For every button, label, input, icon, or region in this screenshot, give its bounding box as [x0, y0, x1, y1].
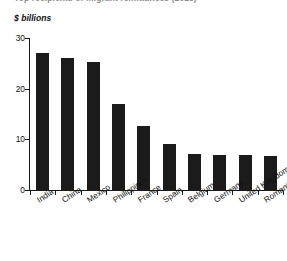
- bar[interactable]: [36, 53, 49, 190]
- y-tick-label: 0: [0, 186, 25, 194]
- bars-container: [30, 38, 283, 190]
- y-tick-mark: [25, 139, 29, 140]
- bar[interactable]: [163, 144, 176, 190]
- y-tick-mark: [25, 190, 29, 191]
- bar[interactable]: [87, 62, 100, 190]
- clipped-title-strip: Top recipients of migrant remittances (2…: [0, 0, 287, 7]
- y-tick-mark: [25, 38, 29, 39]
- x-tick-mark: [30, 191, 31, 195]
- y-tick-label: 10: [0, 135, 25, 143]
- bar[interactable]: [213, 155, 226, 190]
- chart-figure: Top recipients of migrant remittances (2…: [0, 0, 287, 261]
- y-axis-unit-label: $ billions: [14, 13, 51, 23]
- y-tick-label: 20: [0, 85, 25, 93]
- chart-title: Top recipients of migrant remittances (2…: [14, 0, 197, 3]
- y-tick-label: 30: [0, 34, 25, 42]
- y-tick-mark: [25, 89, 29, 90]
- bar[interactable]: [188, 154, 201, 190]
- bar[interactable]: [61, 58, 74, 190]
- bar[interactable]: [112, 104, 125, 190]
